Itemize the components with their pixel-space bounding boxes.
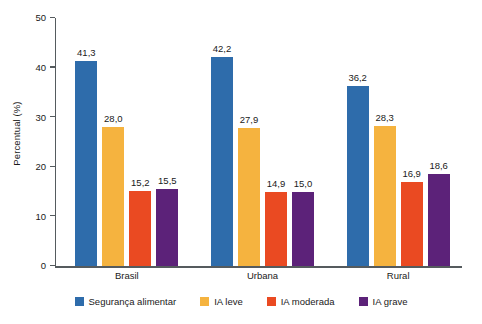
bar-value-label: 28,3 — [375, 112, 394, 123]
bar-rect — [265, 192, 287, 266]
y-axis-tick-label: 40 — [35, 61, 46, 72]
bar-value-label: 41,3 — [77, 47, 96, 58]
bar: 41,3 — [75, 61, 97, 266]
bar-rect — [347, 86, 369, 266]
bar: 27,9 — [238, 128, 260, 266]
bar-value-label: 36,2 — [348, 72, 367, 83]
x-axis-line — [55, 266, 462, 268]
bar-value-label: 42,2 — [213, 43, 232, 54]
bar-value-label: 15,0 — [294, 178, 313, 189]
y-axis-tick: 0 — [50, 265, 55, 266]
bar: 36,2 — [347, 86, 369, 266]
legend-swatch-icon — [75, 297, 84, 306]
bar-rect — [238, 128, 260, 266]
bar: 28,3 — [374, 126, 396, 266]
bar-rect — [75, 61, 97, 266]
bar-rect — [292, 192, 314, 266]
legend-item[interactable]: IA leve — [200, 296, 243, 307]
bar-chart: Percentual (%) 0102030405041,328,015,215… — [0, 0, 482, 324]
legend-item[interactable]: Segurança alimentar — [75, 296, 177, 307]
legend-swatch-icon — [359, 297, 368, 306]
bar-value-label: 27,9 — [240, 114, 259, 125]
bar-rect — [401, 182, 423, 266]
bar-value-label: 18,6 — [429, 160, 448, 171]
legend-item[interactable]: IA grave — [359, 296, 408, 307]
bar: 18,6 — [428, 174, 450, 266]
bar-value-label: 28,0 — [104, 113, 123, 124]
legend-label: IA grave — [373, 296, 408, 307]
y-axis-tick-label: 30 — [35, 111, 46, 122]
y-axis-line — [55, 18, 56, 266]
bar: 42,2 — [211, 57, 233, 266]
bar: 15,5 — [156, 189, 178, 266]
y-axis-tick: 40 — [50, 66, 55, 67]
bar-value-label: 15,5 — [158, 175, 177, 186]
chart-legend: Segurança alimentarIA leveIA moderadaIA … — [0, 296, 482, 307]
y-axis-tick: 50 — [50, 17, 55, 18]
bar-rect — [156, 189, 178, 266]
y-axis-tick: 20 — [50, 166, 55, 167]
bar-rect — [374, 126, 396, 266]
x-axis-category-label: Brasil — [115, 270, 139, 281]
y-axis-tick: 10 — [50, 215, 55, 216]
bar-rect — [211, 57, 233, 266]
y-axis-title: Percentual (%) — [11, 74, 22, 194]
legend-swatch-icon — [267, 297, 276, 306]
bar-rect — [428, 174, 450, 266]
bar: 15,2 — [129, 191, 151, 266]
legend-item[interactable]: IA moderada — [267, 296, 335, 307]
legend-label: Segurança alimentar — [89, 296, 177, 307]
legend-label: IA moderada — [281, 296, 335, 307]
y-axis-tick-label: 50 — [35, 12, 46, 23]
bar: 14,9 — [265, 192, 287, 266]
bar-rect — [129, 191, 151, 266]
y-axis-tick-label: 20 — [35, 161, 46, 172]
bar: 28,0 — [102, 127, 124, 266]
y-axis-tick-label: 0 — [41, 260, 46, 271]
bar-value-label: 16,9 — [402, 168, 421, 179]
bar: 16,9 — [401, 182, 423, 266]
y-axis-tick: 30 — [50, 116, 55, 117]
bar-value-label: 15,2 — [131, 177, 150, 188]
legend-swatch-icon — [200, 297, 209, 306]
bar-rect — [102, 127, 124, 266]
x-axis-category-label: Rural — [387, 270, 410, 281]
bar: 15,0 — [292, 192, 314, 266]
plot-area: 0102030405041,328,015,215,5Brasil42,227,… — [55, 18, 462, 266]
bar-value-label: 14,9 — [267, 178, 286, 189]
legend-label: IA leve — [214, 296, 243, 307]
y-axis-tick-label: 10 — [35, 210, 46, 221]
x-axis-category-label: Urbana — [247, 270, 278, 281]
